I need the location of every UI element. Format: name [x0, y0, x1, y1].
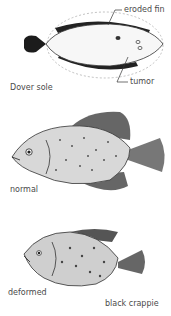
fish-illustration: [0, 0, 171, 316]
eroded-fin-label: eroded fin: [124, 6, 165, 14]
black-crappie-label: black crappie: [105, 300, 159, 308]
deformed-crappie-drawing: [24, 229, 145, 286]
normal-label: normal: [10, 186, 38, 194]
deformed-label: deformed: [8, 289, 47, 297]
dover-sole-drawing: [24, 10, 163, 82]
tumor-label: tumor: [130, 78, 154, 86]
normal-crappie-drawing: [12, 112, 165, 190]
dover-sole-label: Dover sole: [10, 84, 53, 92]
